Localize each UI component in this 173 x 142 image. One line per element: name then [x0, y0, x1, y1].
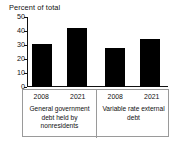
bar-gov-debt-2021 — [67, 28, 87, 87]
x-tick-label-2008: 2008 — [108, 93, 123, 100]
x-tick-label-2008: 2008 — [34, 93, 49, 100]
plot-area: 50 40 30 20 10 0 — [27, 17, 168, 87]
y-tick-mark-0 — [24, 87, 27, 88]
group-0-label-line-3: nonresidents — [25, 122, 94, 131]
group-0-label: General government debt held by nonresid… — [25, 105, 94, 131]
bar-series — [27, 17, 168, 87]
group-0-year-labels: 2008 2021 — [23, 93, 96, 100]
y-tick-label-30: 30 — [0, 41, 25, 48]
group-0-label-line-1: General government — [25, 105, 94, 114]
bar-var-rate-2021 — [140, 39, 160, 87]
group-1-label-line-2: debt — [99, 114, 168, 123]
y-tick-label-40: 40 — [0, 27, 25, 34]
group-0-label-line-2: debt held by — [25, 114, 94, 123]
x-tick-label-2021: 2021 — [144, 93, 159, 100]
y-tick-label-20: 20 — [0, 55, 25, 62]
y-tick-label-50: 50 — [0, 13, 25, 20]
group-1-label-line-1: Variable rate external — [99, 105, 168, 114]
bar-var-rate-2008 — [105, 48, 125, 87]
chart-title: Percent of total — [9, 3, 60, 12]
group-variable-rate-external-debt: 2008 2021 Variable rate external debt — [97, 90, 170, 138]
x-tick-label-2021: 2021 — [70, 93, 85, 100]
category-label-box: 2008 2021 General government debt held b… — [22, 89, 169, 137]
y-tick-label-10: 10 — [0, 69, 25, 76]
group-general-government-debt: 2008 2021 General government debt held b… — [23, 90, 96, 138]
group-1-year-labels: 2008 2021 — [97, 93, 170, 100]
bar-chart: Percent of total 50 40 30 20 10 0 2008 2… — [0, 0, 173, 142]
group-1-label: Variable rate external debt — [99, 105, 168, 122]
bar-gov-debt-2008 — [32, 44, 52, 87]
